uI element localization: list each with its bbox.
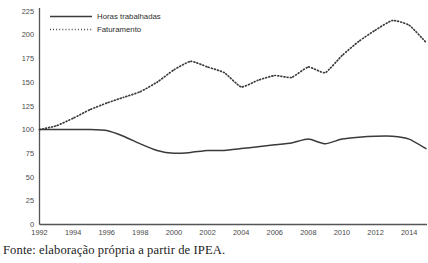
line-chart: 0255075100125150175200225 19921994199619… (0, 0, 428, 238)
chart-legend: Horas trabalhadas Faturamento (50, 12, 161, 34)
x-axis-tick-2002: 2002 (199, 228, 215, 237)
y-axis-tick-225: 225 (22, 7, 34, 16)
y-axis-tick-100: 100 (22, 125, 34, 134)
x-axis-tick-2014: 2014 (401, 228, 417, 237)
x-axis-tick-2004: 2004 (233, 228, 249, 237)
x-axis-tick-1992: 1992 (31, 228, 47, 237)
y-axis-tick-125: 125 (22, 102, 34, 111)
y-axis-tick-50: 50 (26, 173, 34, 182)
y-axis-tick-75: 75 (26, 149, 34, 158)
x-axis-tick-1994: 1994 (65, 228, 81, 237)
x-axis-tick-2010: 2010 (334, 228, 350, 237)
x-axis-tick-1996: 1996 (98, 228, 114, 237)
x-axis-tick-labels: 1992199419961998200020022004200620082010… (31, 228, 417, 237)
y-axis-tick-labels: 0255075100125150175200225 (22, 7, 34, 230)
x-axis-tick-2008: 2008 (300, 228, 316, 237)
series-line-faturamento (40, 20, 427, 129)
legend-label-horas-trabalhadas: Horas trabalhadas (97, 12, 161, 21)
x-axis-tick-2012: 2012 (367, 228, 383, 237)
y-axis-tick-25: 25 (26, 196, 34, 205)
series-line-horas-trabalhadas (40, 130, 427, 154)
x-axis-tick-2000: 2000 (166, 228, 182, 237)
chart-plot-area: 0255075100125150175200225 19921994199619… (0, 0, 428, 238)
x-axis-tick-1998: 1998 (132, 228, 148, 237)
figure-source-caption: Fonte: elaboração própria a partir de IP… (3, 243, 427, 258)
legend-label-faturamento: Faturamento (97, 25, 142, 34)
y-axis-tick-175: 175 (22, 54, 34, 63)
figure-container: 0255075100125150175200225 19921994199619… (0, 0, 428, 263)
x-axis-tick-2006: 2006 (267, 228, 283, 237)
y-axis-tick-200: 200 (22, 30, 34, 39)
y-axis-tick-150: 150 (22, 78, 34, 87)
